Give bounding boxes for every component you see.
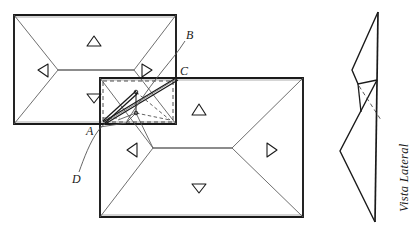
up-triangle-icon <box>87 36 101 46</box>
side-view-spine <box>375 12 378 222</box>
side-view-upper-fold <box>352 12 378 84</box>
seam-line-outer-2 <box>105 80 178 124</box>
label-point-c: C <box>180 65 188 77</box>
down-triangle-icon <box>87 94 101 103</box>
left-triangle-icon <box>38 64 48 77</box>
technical-drawing <box>0 0 413 236</box>
down-triangle-icon <box>192 184 206 193</box>
label-point-b: B <box>186 29 193 41</box>
side-view-profile <box>340 12 381 222</box>
left-triangle-icon <box>127 143 137 157</box>
right-triangle-icon <box>267 143 277 157</box>
seam-node-fan <box>100 113 153 148</box>
label-vista-lateral: Vista Lateral <box>397 143 412 212</box>
right-triangle-icon <box>142 64 152 77</box>
overlap-seam-detail <box>100 78 178 148</box>
label-point-d: D <box>72 173 81 185</box>
seam-line-upper <box>103 91 136 121</box>
detail-dashed-diagonals <box>136 92 170 120</box>
drawing-canvas: B C A D Vista Lateral <box>0 0 413 236</box>
side-view-lower-fold <box>340 80 377 222</box>
leader-lines <box>79 41 185 172</box>
up-triangle-icon <box>192 104 206 115</box>
label-point-a: A <box>86 125 93 137</box>
